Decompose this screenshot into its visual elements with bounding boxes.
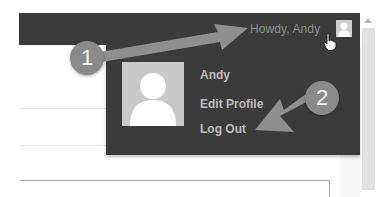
arrow-1-icon [100,24,248,62]
arrow-2-icon [255,94,310,132]
step-badge-1: 1 [70,41,104,75]
step-badge-2: 2 [305,81,339,115]
hand-pointer-icon [323,33,337,51]
